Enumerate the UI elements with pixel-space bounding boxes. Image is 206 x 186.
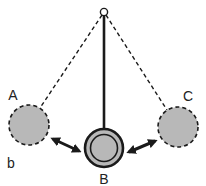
bob-a	[9, 105, 49, 145]
string-to-c-dashed	[106, 15, 167, 110]
panel-label: b	[7, 155, 15, 171]
bob-b	[85, 129, 123, 167]
pendulum-diagram: A B C b	[0, 0, 206, 186]
label-a: A	[8, 87, 18, 103]
pivot-icon	[100, 8, 107, 15]
label-c: C	[183, 88, 193, 104]
arrow-a-b-double-icon	[53, 139, 79, 151]
arrow-b-c-double-icon	[129, 141, 155, 152]
bob-c	[158, 107, 198, 147]
label-b: B	[99, 171, 108, 186]
string-to-a-dashed	[40, 15, 102, 108]
